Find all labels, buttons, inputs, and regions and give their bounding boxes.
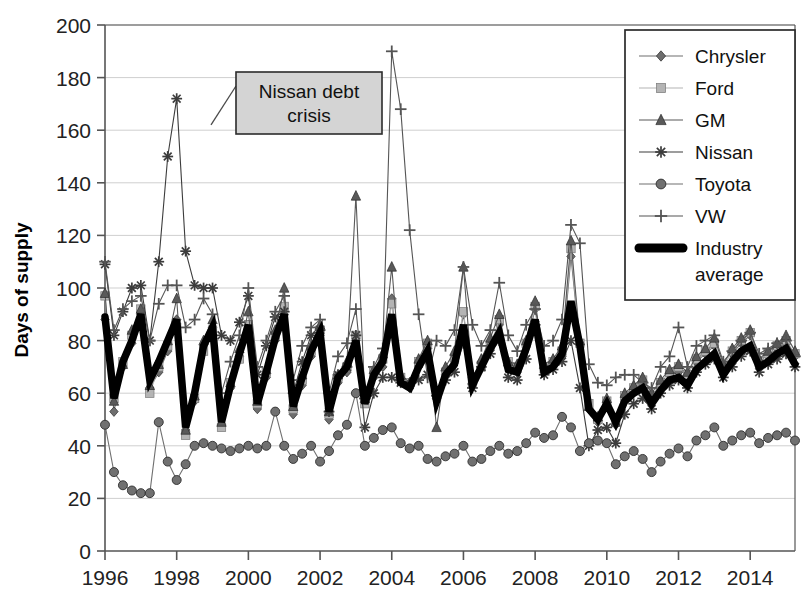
legend-label: Ford — [695, 78, 734, 99]
marker-circle — [244, 441, 253, 450]
x-tick-label: 2010 — [583, 566, 630, 589]
annotation-leader-line — [211, 86, 236, 125]
marker-circle — [101, 420, 110, 429]
x-tick-label: 1998 — [153, 566, 200, 589]
marker-circle — [549, 431, 558, 440]
marker-circle — [692, 436, 701, 445]
marker-circle — [217, 444, 226, 453]
days-of-supply-line-chart: 0204060801001201401601802001996199820002… — [0, 0, 811, 613]
marker-circle — [127, 486, 136, 495]
marker-circle — [575, 447, 584, 456]
marker-circle — [782, 428, 791, 437]
marker-circle — [540, 433, 549, 442]
marker-diamond — [110, 407, 118, 417]
marker-circle — [602, 439, 611, 448]
marker-circle — [333, 431, 342, 440]
y-tick-label: 200 — [56, 14, 91, 37]
marker-circle — [172, 475, 181, 484]
marker-circle — [629, 447, 638, 456]
legend-label: Nissan — [695, 142, 753, 163]
marker-circle — [584, 439, 593, 448]
marker-circle — [522, 439, 531, 448]
y-tick-label: 80 — [68, 330, 91, 353]
x-tick-label: 2002 — [297, 566, 344, 589]
marker-circle — [109, 468, 118, 477]
marker-circle — [719, 441, 728, 450]
marker-circle — [558, 412, 567, 421]
series-toyota — [101, 389, 800, 498]
marker-circle — [620, 452, 629, 461]
y-tick-label: 40 — [68, 435, 91, 458]
marker-circle — [208, 441, 217, 450]
marker-circle — [325, 447, 334, 456]
y-tick-label: 120 — [56, 224, 91, 247]
annotation-text-line2: crisis — [287, 105, 330, 126]
legend-label: VW — [695, 206, 726, 227]
marker-circle — [360, 441, 369, 450]
marker-circle — [414, 441, 423, 450]
chart-container: 0204060801001201401601802001996199820002… — [0, 0, 811, 613]
marker-circle — [746, 428, 755, 437]
marker-circle — [683, 452, 692, 461]
marker-circle — [271, 407, 280, 416]
y-tick-label: 20 — [68, 487, 91, 510]
marker-circle — [737, 431, 746, 440]
y-tick-label: 0 — [79, 540, 91, 563]
marker-circle — [773, 431, 782, 440]
x-tick-label: 2008 — [512, 566, 559, 589]
marker-circle — [235, 444, 244, 453]
marker-circle — [423, 454, 432, 463]
marker-circle — [280, 441, 289, 450]
marker-circle — [468, 457, 477, 466]
y-axis-title: Days of supply — [11, 222, 32, 358]
marker-circle — [638, 454, 647, 463]
y-tick-label: 160 — [56, 119, 91, 142]
legend-box — [625, 30, 795, 300]
marker-square — [656, 83, 665, 92]
marker-circle — [199, 439, 208, 448]
marker-circle — [289, 454, 298, 463]
annotation-text-line1: Nissan debt — [259, 81, 360, 102]
legend-label-continuation: average — [695, 264, 764, 285]
marker-circle — [504, 449, 513, 458]
marker-circle — [486, 447, 495, 456]
marker-circle — [154, 418, 163, 427]
marker-triangle — [387, 262, 396, 272]
marker-circle — [611, 460, 620, 469]
marker-circle — [656, 179, 666, 189]
marker-circle — [531, 428, 540, 437]
marker-circle — [226, 447, 235, 456]
marker-circle — [145, 489, 154, 498]
marker-circle — [674, 444, 683, 453]
marker-circle — [316, 457, 325, 466]
marker-circle — [190, 441, 199, 450]
marker-square — [146, 389, 154, 397]
marker-circle — [665, 449, 674, 458]
marker-circle — [647, 468, 656, 477]
legend-label: Industry — [695, 238, 763, 259]
marker-circle — [791, 436, 800, 445]
marker-triangle — [432, 422, 441, 432]
marker-circle — [118, 481, 127, 490]
marker-circle — [513, 447, 522, 456]
legend: ChryslerFordGMNissanToyotaVWIndustryaver… — [625, 30, 795, 300]
marker-circle — [378, 426, 387, 435]
marker-triangle — [351, 191, 360, 201]
marker-circle — [136, 489, 145, 498]
marker-circle — [764, 433, 773, 442]
marker-circle — [495, 441, 504, 450]
x-tick-label: 2006 — [440, 566, 487, 589]
marker-circle — [405, 444, 414, 453]
legend-label: Chrysler — [695, 46, 766, 67]
y-tick-label: 180 — [56, 67, 91, 90]
y-tick-label: 60 — [68, 382, 91, 405]
marker-circle — [262, 441, 271, 450]
marker-circle — [477, 454, 486, 463]
legend-label: GM — [695, 110, 726, 131]
x-tick-label: 2014 — [727, 566, 774, 589]
y-axis: 020406080100120140160180200 — [56, 14, 105, 563]
marker-circle — [163, 457, 172, 466]
marker-circle — [432, 457, 441, 466]
marker-circle — [307, 441, 316, 450]
marker-circle — [441, 452, 450, 461]
